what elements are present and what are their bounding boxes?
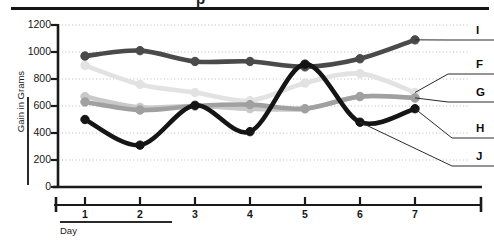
data-point-H	[356, 92, 364, 100]
y-tick-label: 200	[8, 153, 51, 165]
data-point-J	[191, 101, 199, 109]
legend-leader-lines	[360, 40, 494, 166]
legend-label-H: H	[476, 122, 484, 134]
x-tick-label: 1	[69, 208, 101, 220]
data-point-F	[81, 61, 89, 69]
data-point-J	[246, 127, 254, 135]
data-point-F	[356, 69, 364, 77]
y-tick-label: 400	[8, 126, 51, 138]
x-tick-label: 7	[399, 208, 431, 220]
data-point-H	[301, 105, 309, 113]
x-tick-label: 3	[179, 208, 211, 220]
x-tick-label: 6	[344, 208, 376, 220]
legend-label-F: F	[476, 58, 483, 70]
x-tick-label: 4	[234, 208, 266, 220]
plot-area	[0, 0, 494, 243]
legend-label-J: J	[476, 150, 482, 162]
y-tick-label: 0	[8, 180, 51, 192]
y-tick-label: 800	[8, 72, 51, 84]
data-point-I	[246, 57, 254, 65]
data-point-F	[136, 80, 144, 88]
y-tick-label: 600	[8, 99, 51, 111]
data-series-layer	[81, 36, 419, 150]
data-point-I	[136, 46, 144, 54]
y-tick-label: 1200	[8, 18, 51, 30]
data-point-J	[136, 141, 144, 149]
data-point-H	[81, 98, 89, 106]
y-tick-label: 1000	[8, 45, 51, 57]
legend-label-I: I	[476, 24, 479, 36]
x-tick-label: 5	[289, 208, 321, 220]
chart-figure: p Gain in Grams Day 02004006008001000120…	[0, 0, 494, 243]
data-point-I	[356, 55, 364, 63]
leader-line-J	[360, 122, 494, 166]
x-tick-label: 2	[124, 208, 156, 220]
leader-line-G	[415, 98, 494, 102]
data-point-H	[136, 106, 144, 114]
data-point-J	[301, 60, 309, 68]
data-point-H	[246, 100, 254, 108]
legend-label-G: G	[476, 86, 485, 98]
data-point-F	[301, 79, 309, 87]
series-I	[81, 36, 419, 71]
data-point-F	[191, 88, 199, 96]
x-tick-marks	[85, 197, 415, 205]
data-point-J	[81, 115, 89, 123]
data-point-I	[191, 57, 199, 65]
data-point-I	[81, 52, 89, 60]
